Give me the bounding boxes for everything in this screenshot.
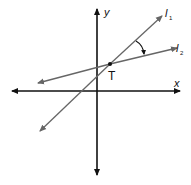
coordinate-diagram: x y l 1 l 2 T bbox=[0, 0, 191, 185]
angle-arc-icon bbox=[136, 41, 144, 54]
line-l1 bbox=[40, 16, 162, 131]
svg-text:l: l bbox=[176, 42, 179, 54]
svg-text:l: l bbox=[165, 7, 168, 19]
point-t bbox=[108, 62, 112, 66]
point-t-label: T bbox=[108, 69, 116, 83]
x-axis-label: x bbox=[173, 77, 180, 89]
y-axis-label: y bbox=[103, 6, 111, 18]
svg-text:1: 1 bbox=[169, 15, 173, 21]
svg-text:2: 2 bbox=[180, 50, 184, 56]
label-l1: l 1 bbox=[165, 7, 173, 21]
label-l2: l 2 bbox=[176, 42, 184, 56]
